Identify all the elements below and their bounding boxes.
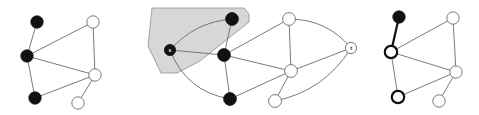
- node-r3-ring[interactable]: [392, 91, 404, 103]
- node-label-t: t: [350, 45, 352, 51]
- left-graph-edges: [27, 22, 95, 103]
- edge-l2-l5: [27, 56, 95, 75]
- node-l3-filled[interactable]: [29, 92, 41, 104]
- edge-m2-m5: [224, 55, 291, 71]
- left-graph-nodes: [21, 16, 101, 109]
- edge-m3-m5: [230, 71, 291, 99]
- node-l1-filled[interactable]: [31, 16, 43, 28]
- node-l6-open[interactable]: [72, 97, 84, 109]
- node-r5-open[interactable]: [450, 66, 462, 78]
- middle-graph-with-cut-region: st: [148, 8, 357, 107]
- node-m5-open[interactable]: [285, 65, 298, 78]
- node-m4-open[interactable]: [283, 13, 296, 26]
- graph-figure: st: [0, 0, 479, 115]
- node-l2-filled[interactable]: [21, 50, 33, 62]
- graph-canvas: st: [0, 0, 479, 115]
- left-graph: [21, 16, 101, 109]
- edge-r4-r5: [453, 18, 456, 72]
- edge-l4-l5: [93, 22, 95, 75]
- node-l4-open[interactable]: [87, 16, 99, 28]
- node-m1-filled[interactable]: [226, 13, 239, 26]
- edge-l3-l5: [35, 75, 95, 98]
- edge-m4-m5: [289, 19, 291, 71]
- right-graph-highlighted-path: [385, 11, 462, 107]
- edge-m5-m_t: [291, 48, 351, 71]
- edge-m4-m_t: [289, 19, 351, 48]
- node-label-s: s: [169, 47, 172, 53]
- node-r6-open[interactable]: [433, 95, 445, 107]
- node-r4-open[interactable]: [447, 12, 459, 24]
- node-r2-ring[interactable]: [385, 46, 397, 58]
- node-r1-filled[interactable]: [393, 11, 405, 23]
- right-graph-highlighted-path-edges: [391, 17, 456, 101]
- node-m3-filled[interactable]: [224, 93, 237, 106]
- node-l5-open[interactable]: [89, 69, 101, 81]
- edge-r2-r5: [391, 52, 456, 72]
- node-m2-filled[interactable]: [218, 49, 231, 62]
- edge-r3-r5: [398, 72, 456, 97]
- node-m6-open[interactable]: [269, 95, 282, 108]
